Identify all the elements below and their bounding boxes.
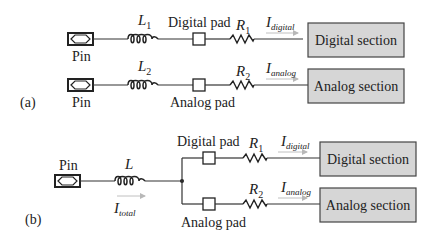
inductor-icon (115, 177, 145, 185)
resistor-label: R2 (235, 63, 250, 82)
current-label: Idigital (265, 14, 295, 32)
resistor-icon (243, 200, 267, 208)
resistor-icon (243, 154, 267, 162)
digital-section-label: Digital section (315, 33, 397, 48)
digital-pad-label: Digital pad (168, 15, 231, 30)
current-label: Idigital (280, 133, 310, 151)
pin-icon (68, 33, 93, 45)
part-a-label: (a) (20, 95, 36, 111)
pin-icon (55, 175, 80, 187)
digital-pad-icon (193, 33, 205, 45)
resistor-label: R1 (235, 17, 250, 36)
analog-pad-icon (193, 79, 205, 91)
total-current-label: Itotal (113, 200, 136, 218)
resistor-label: R2 (248, 181, 263, 200)
inductor-label: L2 (137, 58, 151, 77)
inductor-label: L1 (137, 12, 151, 31)
digital-pad-label: Digital pad (177, 134, 240, 149)
pin-label: Pin (72, 95, 91, 110)
analog-pad-label: Analog pad (170, 95, 235, 110)
current-label: Ianalog (265, 60, 297, 78)
analog-section-label: Analog section (326, 198, 410, 213)
analog-section-label: Analog section (314, 79, 398, 94)
inductor-icon (128, 81, 158, 89)
inductor-label: L (124, 156, 133, 172)
resistor-icon (230, 81, 254, 89)
digital-section-label: Digital section (327, 152, 409, 167)
analog-pad-label: Analog pad (181, 215, 246, 230)
resistor-label: R1 (248, 135, 263, 154)
analog-pad-icon (203, 198, 215, 210)
digital-pad-icon (203, 152, 215, 164)
pin-label: Pin (59, 158, 78, 173)
part-b-label: (b) (25, 212, 42, 228)
pin-label: Pin (72, 49, 91, 64)
pin-icon (68, 79, 93, 91)
inductor-icon (128, 35, 158, 43)
current-label: Ianalog (280, 179, 312, 197)
resistor-icon (230, 35, 254, 43)
